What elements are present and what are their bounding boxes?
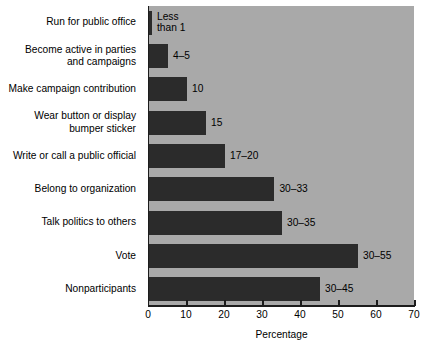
bar-value-label-line: 4–5 bbox=[173, 50, 190, 62]
category-axis: Run for public officeBecome active in pa… bbox=[0, 6, 142, 306]
bar-value-label-line: 10 bbox=[192, 83, 203, 95]
category-label-line: Vote bbox=[116, 250, 136, 262]
x-tick-label: 50 bbox=[332, 309, 343, 320]
bar bbox=[149, 111, 206, 135]
bar-value-label: 30–33 bbox=[279, 183, 307, 195]
category-label-line: Wear button or display bbox=[34, 110, 136, 122]
bar-value-label-line: 17–20 bbox=[230, 150, 258, 162]
category-label-line: Nonparticipants bbox=[65, 283, 136, 295]
category-label: Run for public office bbox=[0, 6, 136, 39]
category-label-line: Make campaign contribution bbox=[9, 83, 136, 95]
category-label-line: Write or call a public official bbox=[13, 150, 136, 162]
category-label: Make campaign contribution bbox=[0, 73, 136, 106]
x-tick-label: 0 bbox=[145, 309, 151, 320]
bar bbox=[149, 211, 282, 235]
category-label-line: bumper sticker bbox=[69, 123, 136, 135]
bar bbox=[149, 11, 152, 35]
category-label-line: Belong to organization bbox=[35, 183, 136, 195]
category-label: Vote bbox=[0, 239, 136, 272]
bar-value-label-line: than 1 bbox=[157, 22, 185, 34]
bar-value-label: Lessthan 1 bbox=[157, 11, 185, 34]
category-label-line: Become active in parties bbox=[25, 44, 136, 56]
bar-value-label-line: 30–45 bbox=[325, 283, 353, 295]
category-label: Belong to organization bbox=[0, 173, 136, 206]
bar-value-label: 30–55 bbox=[363, 250, 391, 262]
x-axis-title: Percentage bbox=[148, 329, 415, 340]
x-tick-label: 40 bbox=[294, 309, 305, 320]
category-label: Write or call a public official bbox=[0, 139, 136, 172]
bar bbox=[149, 244, 358, 268]
bar-value-label: 4–5 bbox=[173, 50, 190, 62]
bar-chart: Run for public officeBecome active in pa… bbox=[0, 0, 433, 355]
category-label-line: Run for public office bbox=[46, 16, 136, 28]
category-label: Nonparticipants bbox=[0, 273, 136, 306]
category-label-line: Talk politics to others bbox=[41, 216, 136, 228]
bar-value-label: 15 bbox=[211, 117, 222, 129]
bar-value-label: 10 bbox=[192, 83, 203, 95]
category-label: Wear button or displaybumper sticker bbox=[0, 106, 136, 139]
bar-value-label-line: Less bbox=[157, 11, 185, 23]
bar-value-label: 17–20 bbox=[230, 150, 258, 162]
x-tick-label: 30 bbox=[256, 309, 267, 320]
bar-value-label-line: 30–35 bbox=[287, 217, 315, 229]
x-tick-label: 20 bbox=[218, 309, 229, 320]
x-tick-label: 60 bbox=[370, 309, 381, 320]
bar-value-label-line: 15 bbox=[211, 117, 222, 129]
bar-value-label: 30–35 bbox=[287, 217, 315, 229]
category-label-line: and campaigns bbox=[67, 56, 136, 68]
bar-value-label-line: 30–33 bbox=[279, 183, 307, 195]
x-tick-label: 10 bbox=[180, 309, 191, 320]
bar bbox=[149, 144, 225, 168]
category-label: Become active in partiesand campaigns bbox=[0, 39, 136, 72]
bar-value-label: 30–45 bbox=[325, 283, 353, 295]
x-axis-line bbox=[148, 305, 415, 307]
bar bbox=[149, 77, 187, 101]
x-tick-label: 70 bbox=[408, 309, 419, 320]
bar-value-label-line: 30–55 bbox=[363, 250, 391, 262]
bar bbox=[149, 277, 320, 301]
bar bbox=[149, 44, 168, 68]
category-label: Talk politics to others bbox=[0, 206, 136, 239]
bar bbox=[149, 177, 274, 201]
